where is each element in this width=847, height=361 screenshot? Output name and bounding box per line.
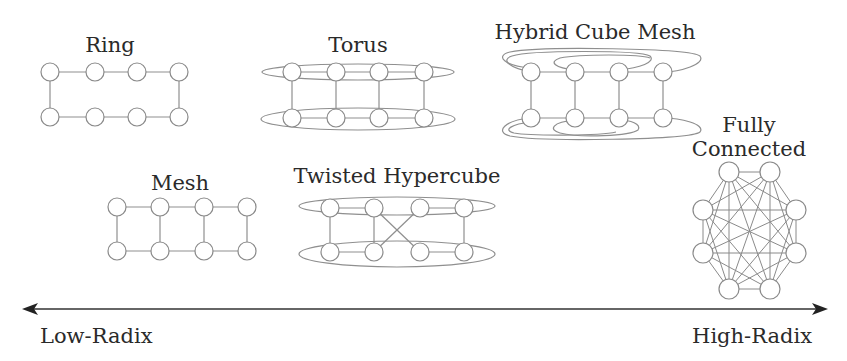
twisted-hypercube-topology: Twisted Hypercube xyxy=(294,164,501,267)
fully-connected-edges xyxy=(703,172,796,289)
ring-edges xyxy=(50,72,179,117)
hybrid-cube-mesh-topology: Hybrid Cube Mesh xyxy=(495,20,701,139)
fully-connected-label-line1: Fully xyxy=(722,113,776,137)
hybrid-cube-mesh-label: Hybrid Cube Mesh xyxy=(495,20,696,44)
hybrid-cube-mesh-edges xyxy=(531,72,663,118)
high-radix-label: High-Radix xyxy=(692,324,812,348)
mesh-label: Mesh xyxy=(151,171,209,195)
fully-connected-label-line2: Connected xyxy=(692,137,806,161)
radix-axis: Low-Radix High-Radix xyxy=(22,303,828,348)
torus-label: Torus xyxy=(328,33,387,57)
ring-topology: Ring xyxy=(41,33,188,126)
mesh-topology: Mesh xyxy=(108,171,256,260)
mesh-edges xyxy=(117,207,247,251)
low-radix-label: Low-Radix xyxy=(40,324,153,348)
twisted-hypercube-label: Twisted Hypercube xyxy=(294,164,501,188)
ring-label: Ring xyxy=(85,33,135,57)
fully-connected-topology: Fully Connected xyxy=(692,113,806,299)
topology-diagram: Ring Torus xyxy=(0,0,847,361)
torus-topology: Torus xyxy=(261,33,455,130)
